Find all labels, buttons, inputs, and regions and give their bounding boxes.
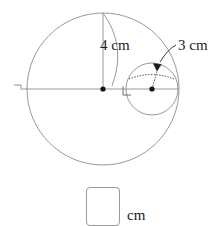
small-circle-radius-dotted (152, 71, 157, 89)
leader-line-3cm (160, 45, 176, 62)
small-circle-chord-dotted (129, 75, 174, 80)
leader-arrowhead-3cm (153, 64, 161, 71)
diagram-canvas: 4 cm 3 cm cm (0, 0, 224, 226)
answer-input[interactable] (86, 187, 120, 226)
left-right-angle-tick (14, 85, 21, 90)
answer-unit-label: cm (127, 207, 145, 224)
radius-label-small: 3 cm (178, 38, 208, 53)
large-circle-center-dot (100, 86, 105, 91)
small-circle-center-dot (149, 86, 154, 91)
center-right-angle-mark (123, 86, 131, 95)
radius-label-large: 4 cm (100, 38, 130, 53)
answer-row: cm (86, 187, 145, 226)
